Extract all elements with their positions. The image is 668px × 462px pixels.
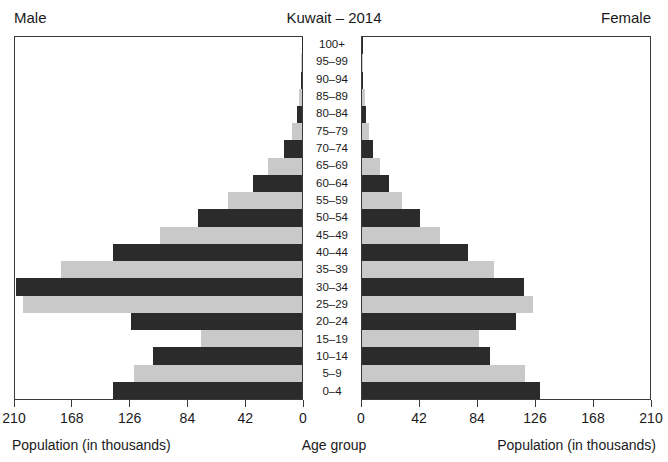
female-tick-mark bbox=[593, 400, 594, 407]
female-bar-60-64 bbox=[362, 175, 389, 192]
bar-row bbox=[362, 106, 650, 123]
male-plot-area bbox=[14, 36, 303, 400]
bar-row bbox=[362, 123, 650, 140]
male-bar-5-9 bbox=[134, 365, 302, 382]
bar-row bbox=[362, 175, 650, 192]
male-bar-45-49 bbox=[160, 227, 302, 244]
male-bar-rows bbox=[15, 37, 302, 399]
female-bar-45-49 bbox=[362, 227, 440, 244]
bar-row bbox=[15, 365, 302, 382]
age-group-label: 25–29 bbox=[303, 296, 361, 313]
age-group-label: 90–94 bbox=[303, 71, 361, 88]
male-tick-mark bbox=[245, 400, 246, 407]
male-axis-tick-labels: 21016812684420 bbox=[14, 408, 303, 428]
female-bar-40-44 bbox=[362, 244, 468, 261]
male-bar-95-99 bbox=[301, 54, 302, 71]
bar-row bbox=[362, 192, 650, 209]
bar-row bbox=[362, 365, 650, 382]
bar-row bbox=[15, 382, 302, 399]
male-bar-30-34 bbox=[16, 278, 302, 295]
male-bar-75-79 bbox=[292, 123, 302, 140]
female-bar-80-84 bbox=[362, 106, 366, 123]
male-bar-0-4 bbox=[113, 382, 302, 399]
female-bar-90-94 bbox=[362, 72, 363, 89]
bar-row bbox=[15, 313, 302, 330]
male-tick-label: 0 bbox=[299, 408, 307, 428]
bar-row bbox=[362, 313, 650, 330]
male-tick-mark bbox=[71, 400, 72, 407]
age-group-label: 65–69 bbox=[303, 157, 361, 174]
bar-row bbox=[15, 89, 302, 106]
female-tick-label: 210 bbox=[639, 408, 662, 428]
female-tick-label: 0 bbox=[357, 408, 365, 428]
bar-row bbox=[362, 278, 650, 295]
male-tick-mark bbox=[14, 400, 15, 407]
female-side-label: Female bbox=[601, 6, 651, 30]
female-tick-mark bbox=[651, 400, 652, 407]
male-bar-25-29 bbox=[23, 296, 302, 313]
age-group-label: 95–99 bbox=[303, 53, 361, 70]
female-bar-50-54 bbox=[362, 209, 420, 226]
female-bar-75-79 bbox=[362, 123, 369, 140]
age-group-axis-labels: 0–45–910–1415–1920–2425–2930–3435–3940–4… bbox=[303, 36, 361, 400]
male-tick-label: 168 bbox=[60, 408, 83, 428]
male-bar-55-59 bbox=[228, 192, 302, 209]
population-pyramid-chart: Male Kuwait – 2014 Female 0–45–910–1415–… bbox=[0, 0, 668, 462]
age-group-label: 40–44 bbox=[303, 244, 361, 261]
female-tick-label: 168 bbox=[581, 408, 604, 428]
female-bar-15-19 bbox=[362, 330, 479, 347]
female-bar-95-99 bbox=[362, 54, 363, 71]
bar-row bbox=[15, 54, 302, 71]
age-group-label: 85–89 bbox=[303, 88, 361, 105]
female-axis-ticks bbox=[361, 400, 651, 408]
male-bar-70-74 bbox=[284, 140, 302, 157]
bar-row bbox=[15, 347, 302, 364]
male-tick-mark bbox=[129, 400, 130, 407]
male-tick-mark bbox=[303, 400, 304, 407]
bar-row bbox=[362, 54, 650, 71]
female-bar-10-14 bbox=[362, 347, 490, 364]
bar-row bbox=[15, 261, 302, 278]
male-tick-label: 84 bbox=[180, 408, 196, 428]
male-tick-label: 42 bbox=[237, 408, 253, 428]
female-bar-30-34 bbox=[362, 278, 524, 295]
age-group-label: 35–39 bbox=[303, 261, 361, 278]
bar-row bbox=[15, 72, 302, 89]
male-axis-ticks bbox=[14, 400, 303, 408]
male-bar-50-54 bbox=[198, 209, 302, 226]
male-bar-10-14 bbox=[153, 347, 302, 364]
female-tick-mark bbox=[419, 400, 420, 407]
age-group-label: 45–49 bbox=[303, 227, 361, 244]
bar-row bbox=[15, 106, 302, 123]
female-tick-mark bbox=[535, 400, 536, 407]
female-bar-5-9 bbox=[362, 365, 525, 382]
age-group-label: 0–4 bbox=[303, 383, 361, 400]
bar-row bbox=[15, 140, 302, 157]
male-bar-65-69 bbox=[268, 158, 302, 175]
bar-row bbox=[362, 89, 650, 106]
female-tick-label: 126 bbox=[523, 408, 546, 428]
female-plot-area bbox=[361, 36, 651, 400]
bar-row bbox=[362, 261, 650, 278]
age-group-label: 5–9 bbox=[303, 365, 361, 382]
female-bar-70-74 bbox=[362, 140, 373, 157]
female-axis-tick-labels: 04284126168210 bbox=[361, 408, 651, 428]
male-bar-85-89 bbox=[299, 89, 302, 106]
bar-row bbox=[15, 123, 302, 140]
female-bar-35-39 bbox=[362, 261, 494, 278]
male-bar-15-19 bbox=[201, 330, 302, 347]
female-bar-20-24 bbox=[362, 313, 516, 330]
male-bar-40-44 bbox=[113, 244, 302, 261]
male-bar-60-64 bbox=[253, 175, 302, 192]
female-tick-label: 84 bbox=[469, 408, 485, 428]
bar-row bbox=[362, 209, 650, 226]
bar-row bbox=[15, 244, 302, 261]
female-tick-label: 42 bbox=[411, 408, 427, 428]
age-group-label: 70–74 bbox=[303, 140, 361, 157]
male-bar-80-84 bbox=[297, 106, 302, 123]
male-bar-35-39 bbox=[61, 261, 302, 278]
female-bar-85-89 bbox=[362, 89, 365, 106]
age-group-label: 75–79 bbox=[303, 123, 361, 140]
bar-row bbox=[362, 227, 650, 244]
bar-row bbox=[15, 192, 302, 209]
